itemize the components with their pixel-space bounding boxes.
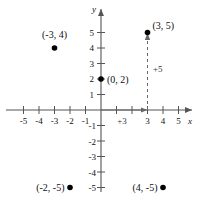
y-tick-label--5: -5 xyxy=(89,183,97,193)
coordinate-plane-diagram: -5 -4 -3 -2 -1 3 4 5 1 2 3 4 5 -1 -2 -3 … xyxy=(0,0,204,200)
data-points-group: (-3, 4) (3, 5) (0, 2) (-2, -5) (4, -5) xyxy=(36,20,174,194)
axes-group xyxy=(6,9,192,192)
data-point-label-0-2: (0, 2) xyxy=(107,74,129,86)
y-tick-label-4: 4 xyxy=(90,43,95,53)
data-point-0-2 xyxy=(98,76,104,82)
data-point-label--2--5: (-2, -5) xyxy=(36,182,64,194)
x-tick-label--3: -3 xyxy=(51,116,59,126)
horizontal-run-annotation: +3 xyxy=(101,107,148,126)
x-tick-label--2: -2 xyxy=(66,116,74,126)
y-tick-label--2: -2 xyxy=(89,137,97,147)
y-axis-arrowhead xyxy=(98,9,104,16)
x-axis-label: x xyxy=(187,116,192,126)
run-label: +3 xyxy=(117,116,127,126)
y-tick-label-5: 5 xyxy=(90,28,95,38)
rise-label: +5 xyxy=(153,64,163,74)
x-tick-label-4: 4 xyxy=(161,116,166,126)
data-point--2--5 xyxy=(67,185,73,191)
x-tick-label-5: 5 xyxy=(176,116,181,126)
graph-canvas: -5 -4 -3 -2 -1 3 4 5 1 2 3 4 5 -1 -2 -3 … xyxy=(0,0,204,200)
y-tick-label--4: -4 xyxy=(89,168,97,178)
vertical-rise-annotation: +5 xyxy=(145,33,163,110)
data-point-3-5 xyxy=(145,30,151,36)
data-point--3-4 xyxy=(52,45,58,51)
x-axis-arrowhead xyxy=(185,107,192,113)
data-point-label--3-4: (-3, 4) xyxy=(42,29,67,41)
y-tick-label-1: 1 xyxy=(90,90,95,100)
y-tick-label--1: -1 xyxy=(89,121,97,131)
y-tick-label--3: -3 xyxy=(89,152,97,162)
data-point-label-4--5: (4, -5) xyxy=(133,182,158,194)
x-tick-label--4: -4 xyxy=(35,116,43,126)
y-tick-label-3: 3 xyxy=(90,59,95,69)
y-tick-label-2: 2 xyxy=(90,74,95,84)
run-arrowhead xyxy=(141,107,148,112)
data-point-4--5 xyxy=(160,185,166,191)
data-point-label-3-5: (3, 5) xyxy=(153,20,175,32)
x-tick-label-3: 3 xyxy=(145,116,150,126)
x-tick-label--5: -5 xyxy=(20,116,28,126)
y-axis-label: y xyxy=(91,4,96,14)
